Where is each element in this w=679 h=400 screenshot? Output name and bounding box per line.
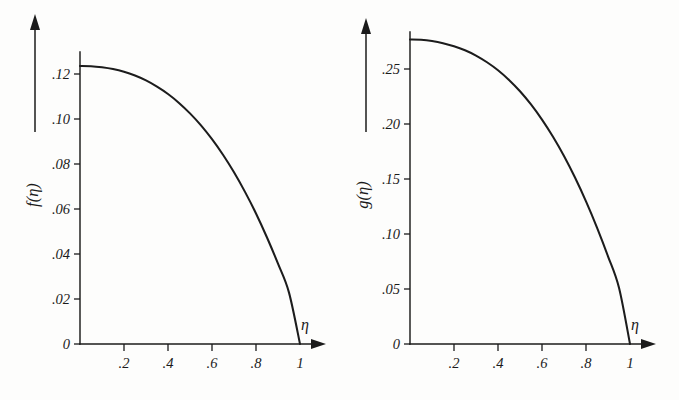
data-curve-g <box>410 40 630 345</box>
x-tick-label-04-left: .4 <box>163 355 174 371</box>
chart-panel-left: 0 .02 .04 .06 .08 .10 .12 .2 .4 .6 .8 1 … <box>0 0 339 400</box>
x-axis-title-right: η <box>631 316 639 334</box>
y-tick-label-025-right: .25 <box>382 61 400 77</box>
x-tick-label-08-right: .8 <box>581 355 593 371</box>
y-tick-label-010-right: .10 <box>382 226 401 242</box>
y-tick-label-0-right: 0 <box>393 336 401 352</box>
chart-panel-right: 0 .05 .10 .15 .20 .25 .2 .4 .6 .8 1 η g(… <box>340 0 679 400</box>
plot-area-right: 0 .05 .10 .15 .20 .25 .2 .4 .6 .8 1 η g(… <box>340 0 679 400</box>
y-axis-title-left: f(η) <box>23 183 42 207</box>
x-tick-label-06-right: .6 <box>537 355 549 371</box>
y-tick-label-008-left: .08 <box>52 156 71 172</box>
y-tick-label-005-right: .05 <box>382 281 400 297</box>
plot-area-left: 0 .02 .04 .06 .08 .10 .12 .2 .4 .6 .8 1 … <box>0 0 339 400</box>
y-tick-label-002-left: .02 <box>52 291 70 307</box>
data-curve-f-main <box>80 66 300 344</box>
y-direction-arrow-icon-right <box>361 18 371 34</box>
x-tick-label-1-right: 1 <box>626 355 633 371</box>
x-tick-label-02-left: .2 <box>119 355 130 371</box>
y-tick-label-0-left: 0 <box>63 336 71 352</box>
x-tick-label-04-right: .4 <box>493 355 504 371</box>
x-tick-label-02-right: .2 <box>449 355 460 371</box>
y-tick-label-015-right: .15 <box>382 171 400 187</box>
y-tick-label-012-left: .12 <box>52 66 70 82</box>
figure-sheet: 0 .02 .04 .06 .08 .10 .12 .2 .4 .6 .8 1 … <box>0 0 679 400</box>
y-axis-title-right: g(η) <box>353 181 372 208</box>
x-axis-arrow-icon-right <box>641 339 656 349</box>
x-axis-arrow-icon-left <box>311 339 326 349</box>
y-tick-label-010-left: .10 <box>52 111 71 127</box>
x-tick-label-08-left: .8 <box>251 355 263 371</box>
y-tick-label-006-left: .06 <box>52 201 71 217</box>
x-tick-label-06-left: .6 <box>207 355 219 371</box>
x-tick-label-1-left: 1 <box>296 355 303 371</box>
y-tick-label-020-right: .20 <box>382 116 401 132</box>
y-direction-arrow-icon-left <box>30 14 40 30</box>
x-axis-title-left: η <box>301 316 309 334</box>
y-tick-label-004-left: .04 <box>52 246 70 262</box>
